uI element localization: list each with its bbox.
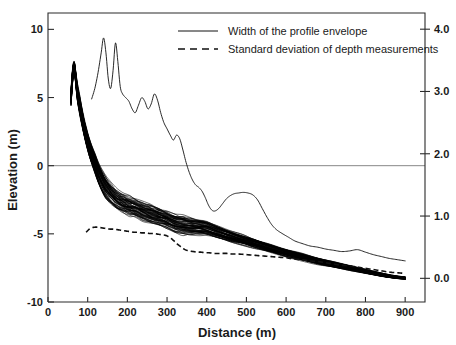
profile-line — [71, 69, 405, 278]
profile-line — [71, 69, 405, 279]
profile-line — [71, 62, 405, 277]
y-tick-label: -10 — [27, 296, 43, 308]
profile-line — [71, 69, 405, 278]
profile-line — [71, 64, 405, 278]
y2-tick-label: 4.0 — [434, 23, 449, 35]
x-tick-label: 700 — [317, 306, 335, 318]
profile-line — [71, 70, 405, 279]
profile-line — [71, 67, 405, 278]
legend: Width of the profile envelopeStandard de… — [178, 25, 439, 55]
x-tick-label: 100 — [79, 306, 97, 318]
y-axis-left-ticks: 1050-5-10 — [27, 23, 54, 308]
profile-line — [71, 64, 405, 278]
x-tick-label: 300 — [158, 306, 176, 318]
profile-line — [71, 69, 405, 279]
profile-line — [71, 67, 405, 278]
profile-line — [71, 67, 405, 279]
profile-line — [71, 66, 405, 279]
profile-line — [71, 65, 405, 277]
profile-line — [71, 70, 405, 279]
profile-line — [71, 65, 405, 278]
envelope-width-curve — [92, 38, 406, 261]
profile-line — [71, 61, 405, 277]
profile-line — [71, 68, 405, 278]
y-axis-right-ticks: 4.03.02.01.00.0 — [420, 23, 449, 284]
x-tick-label: 500 — [237, 306, 255, 318]
x-axis-title: Distance (m) — [198, 325, 276, 340]
profile-line — [71, 68, 405, 279]
legend-label-1: Width of the profile envelope — [228, 25, 367, 37]
y-tick-label: 5 — [37, 92, 43, 104]
profile-line — [71, 66, 405, 278]
profile-line — [71, 64, 405, 278]
profile-line — [71, 62, 405, 277]
profile-line — [71, 63, 405, 278]
profile-line — [71, 70, 405, 279]
profile-line — [71, 63, 405, 277]
profile-line — [71, 64, 405, 277]
x-axis-ticks: 0100200300400500600700800900 — [45, 297, 414, 318]
profile-line — [71, 67, 405, 278]
profile-bundle-lines — [71, 61, 405, 279]
y-axis-title: Elevation (m) — [5, 129, 20, 211]
y2-tick-label: 2.0 — [434, 148, 449, 160]
profile-line — [71, 63, 405, 278]
y2-tick-label: 0.0 — [434, 272, 449, 284]
profile-line — [71, 70, 405, 279]
profile-line — [71, 63, 405, 278]
figure-container: 0100200300400500600700800900 1050-5-10 4… — [0, 0, 456, 345]
profile-line — [71, 63, 405, 278]
profile-line — [71, 70, 405, 279]
profile-line — [71, 70, 405, 279]
profile-line — [71, 66, 405, 278]
profile-line — [71, 67, 405, 278]
profile-line — [71, 68, 405, 278]
profile-line — [71, 64, 405, 277]
profile-line — [71, 63, 405, 278]
y-tick-label: 0 — [37, 160, 43, 172]
y2-tick-label: 1.0 — [434, 210, 449, 222]
profile-line — [71, 67, 405, 279]
profile-line — [71, 65, 405, 278]
x-tick-label: 800 — [356, 306, 374, 318]
profile-line — [71, 66, 405, 277]
legend-label-2: Standard deviation of depth measurements — [228, 43, 439, 55]
profile-line — [71, 64, 405, 277]
profile-line — [71, 68, 405, 279]
x-tick-label: 200 — [118, 306, 136, 318]
profile-line — [71, 66, 405, 279]
profile-line — [71, 66, 405, 278]
x-tick-label: 0 — [45, 306, 51, 318]
profile-line — [71, 65, 405, 278]
profile-line — [71, 69, 405, 279]
y-tick-label: 10 — [31, 23, 43, 35]
y-tick-label: -5 — [33, 228, 43, 240]
profile-line — [71, 63, 405, 277]
std-deviation-curve — [86, 227, 405, 273]
y2-tick-label: 3.0 — [434, 85, 449, 97]
axes-frame — [48, 13, 425, 302]
profile-line — [71, 65, 405, 278]
profile-line — [71, 65, 405, 278]
x-tick-label: 900 — [396, 306, 414, 318]
profile-line — [71, 69, 405, 279]
profile-line — [71, 66, 405, 278]
profile-line — [71, 67, 405, 278]
profile-line — [71, 68, 405, 279]
profile-line — [71, 69, 405, 280]
profile-line — [71, 62, 405, 277]
profile-line — [71, 67, 405, 278]
profile-line — [71, 71, 405, 279]
elevation-distance-chart: 0100200300400500600700800900 1050-5-10 4… — [0, 0, 456, 345]
profile-line — [71, 66, 405, 277]
profile-line — [71, 70, 405, 279]
x-tick-label: 400 — [198, 306, 216, 318]
x-tick-label: 600 — [277, 306, 295, 318]
